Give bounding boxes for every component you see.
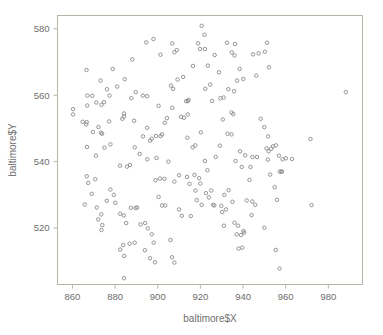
y-tick-label: 580 xyxy=(34,23,50,34)
x-tick-label: 960 xyxy=(278,291,294,302)
x-tick-label: 880 xyxy=(107,291,123,302)
y-axis-title: baltimore$Y xyxy=(7,123,18,177)
y-tick-label: 540 xyxy=(34,156,50,167)
x-tick-label: 920 xyxy=(192,291,208,302)
x-tick-label: 980 xyxy=(320,291,336,302)
plot-canvas: 860880900920940960980 520540560580 balti… xyxy=(0,0,383,335)
scatter-plot-figure: 860880900920940960980 520540560580 balti… xyxy=(0,0,383,335)
x-tick-label: 860 xyxy=(65,291,81,302)
x-axis-title: baltimore$X xyxy=(183,313,237,324)
x-tick-label: 940 xyxy=(235,291,251,302)
y-tick-label: 520 xyxy=(34,222,50,233)
y-tick-label: 560 xyxy=(34,90,50,101)
x-tick-label: 900 xyxy=(150,291,166,302)
